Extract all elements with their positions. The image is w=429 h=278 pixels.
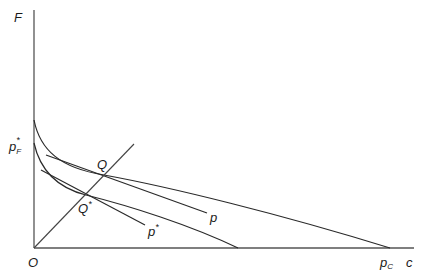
- tangent-line-p: [46, 155, 207, 213]
- pC-sub: C: [387, 262, 393, 271]
- Q-star-sup: *: [88, 199, 92, 209]
- upper-curve: [34, 120, 390, 248]
- line-p-star-label: p*: [147, 222, 159, 239]
- p-star-sup: *: [155, 222, 159, 232]
- point-Q-label: Q: [97, 157, 107, 172]
- pF-star-sub: F: [16, 147, 22, 156]
- Q-star-base: Q: [78, 201, 88, 216]
- x-axis-label: c: [406, 255, 413, 270]
- economic-diagram: F c O pF* pC Q Q* p p*: [0, 0, 429, 278]
- origin-label: O: [28, 255, 38, 270]
- pF-star-base: p: [8, 139, 16, 154]
- line-p-label: p: [209, 210, 217, 225]
- point-Q-star-label: Q*: [78, 199, 92, 216]
- pC-base: p: [379, 255, 387, 270]
- lower-curve: [34, 143, 238, 248]
- ray-from-origin: [34, 144, 134, 248]
- tangent-line-p-star: [41, 170, 145, 225]
- pC-label: pC: [379, 255, 393, 271]
- pF-star-sup: *: [16, 135, 20, 145]
- p-star-base: p: [147, 224, 155, 239]
- pF-star-label: pF*: [8, 135, 22, 156]
- y-axis-label: F: [14, 10, 23, 25]
